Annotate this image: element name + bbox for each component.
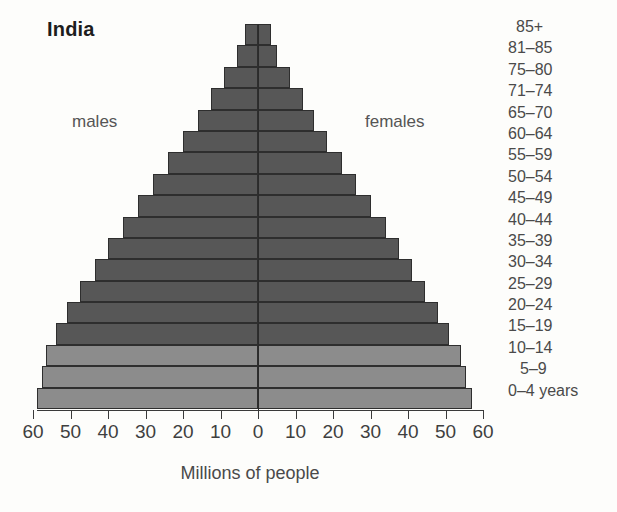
x-axis-tick [71, 410, 72, 419]
age-group-label: 35–39 [498, 230, 617, 251]
bar-males [37, 388, 258, 409]
age-group-label: 55–59 [498, 144, 617, 165]
bar-males [183, 131, 258, 152]
population-pyramid-figure: India males females Millions of people 8… [0, 0, 617, 512]
x-axis-tick [108, 410, 109, 419]
bar-females [258, 217, 386, 238]
bar-males [56, 323, 259, 344]
pyramid-row [0, 345, 500, 366]
x-axis-tick [333, 410, 334, 419]
age-group-label: 65–70 [498, 102, 617, 123]
bar-females [258, 366, 466, 387]
x-axis-tick [371, 410, 372, 419]
x-axis-tick-label: 30 [351, 421, 391, 443]
age-group-label-list: 85+81–8575–8071–7465–7060–6455–5950–5445… [498, 16, 617, 401]
bar-females [258, 131, 327, 152]
x-axis-line [37, 410, 484, 411]
age-group-label: 30–34 [498, 251, 617, 272]
age-group-label: 20–24 [498, 294, 617, 315]
bar-females [258, 388, 472, 409]
age-group-label: 60–64 [498, 123, 617, 144]
x-axis-tick [483, 410, 484, 419]
bar-females [258, 152, 342, 173]
x-axis-tick [258, 410, 259, 419]
x-axis-tick [446, 410, 447, 419]
pyramid-row [0, 131, 500, 152]
pyramid-row [0, 45, 500, 66]
x-axis-tick-label: 40 [88, 421, 128, 443]
x-axis-tick-label: 30 [126, 421, 166, 443]
age-group-label: 5–9 [498, 358, 617, 379]
pyramid-row [0, 281, 500, 302]
pyramid-row [0, 366, 500, 387]
pyramid-row [0, 302, 500, 323]
bar-females [258, 238, 399, 259]
age-group-label: 71–74 [498, 80, 617, 101]
bar-males [108, 238, 258, 259]
age-group-label: 45–49 [498, 187, 617, 208]
bar-males [67, 302, 258, 323]
bar-females [258, 110, 314, 131]
age-group-label: 85+ [498, 16, 617, 37]
x-axis-tick-label: 40 [388, 421, 428, 443]
bar-females [258, 24, 271, 45]
bar-males [46, 345, 258, 366]
pyramid-row [0, 388, 500, 409]
bar-males [237, 45, 258, 66]
bar-males [245, 24, 258, 45]
pyramid-row [0, 323, 500, 344]
bar-females [258, 259, 412, 280]
pyramid-row [0, 67, 500, 88]
x-axis-tick-label: 60 [13, 421, 53, 443]
age-group-label: 25–29 [498, 273, 617, 294]
x-axis-tick [183, 410, 184, 419]
bar-females [258, 174, 356, 195]
bar-males [211, 88, 258, 109]
age-group-label: 75–80 [498, 59, 617, 80]
pyramid-row [0, 195, 500, 216]
x-axis-tick-label: 20 [313, 421, 353, 443]
pyramid-row [0, 88, 500, 109]
bar-males [123, 217, 258, 238]
bar-females [258, 323, 449, 344]
bar-females [258, 302, 438, 323]
bar-females [258, 345, 461, 366]
bar-males [224, 67, 258, 88]
pyramid-row [0, 110, 500, 131]
bar-females [258, 67, 290, 88]
age-group-label: 10–14 [498, 337, 617, 358]
bar-males [168, 152, 258, 173]
pyramid-row [0, 24, 500, 45]
center-axis-line [258, 24, 259, 410]
bar-males [198, 110, 258, 131]
age-group-label: 50–54 [498, 166, 617, 187]
bar-females [258, 281, 425, 302]
bar-females [258, 45, 277, 66]
plot-area [0, 24, 500, 409]
x-axis-tick-label: 50 [51, 421, 91, 443]
bar-males [95, 259, 258, 280]
age-group-label: 81–85 [498, 37, 617, 58]
x-axis-tick [33, 410, 34, 419]
x-axis-tick-label: 0 [238, 421, 278, 443]
x-axis-tick [296, 410, 297, 419]
x-axis-tick [221, 410, 222, 419]
x-axis-tick [408, 410, 409, 419]
age-group-label: 15–19 [498, 315, 617, 336]
x-axis-tick [146, 410, 147, 419]
x-axis-caption: Millions of people [0, 463, 500, 484]
pyramid-row [0, 152, 500, 173]
bar-females [258, 88, 303, 109]
x-axis-tick-label: 20 [163, 421, 203, 443]
bar-males [80, 281, 258, 302]
pyramid-row [0, 174, 500, 195]
bar-males [138, 195, 258, 216]
pyramid-row [0, 259, 500, 280]
pyramid-row [0, 238, 500, 259]
bar-males [153, 174, 258, 195]
x-axis-tick-label: 10 [276, 421, 316, 443]
x-axis-tick-label: 10 [201, 421, 241, 443]
x-axis-tick-label: 50 [426, 421, 466, 443]
bar-males [42, 366, 258, 387]
x-axis-tick-label: 60 [463, 421, 503, 443]
